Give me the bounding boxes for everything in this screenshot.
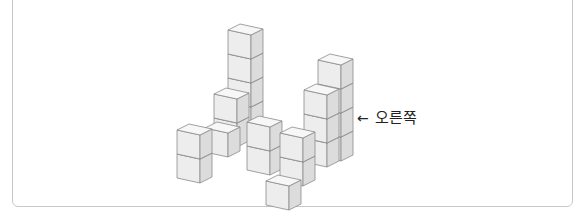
cube-structure [0,0,585,219]
unit-cube [228,24,263,59]
unit-cube [318,54,353,89]
middle-stack [247,116,282,175]
left-stack [177,124,212,183]
unit-cube [280,127,315,162]
front-bottom-cube [266,175,301,210]
unit-cube [177,124,212,159]
unit-cube [247,116,282,151]
front-top-cube [280,127,315,162]
unit-cube [304,84,339,119]
mid-left-stack-top [214,88,249,123]
direction-text: 오른쪽 [375,109,417,127]
unit-cube [266,175,301,210]
unit-cube [214,88,249,123]
direction-label: ←오른쪽 [357,106,417,127]
left-arrow-icon: ← [357,110,369,126]
